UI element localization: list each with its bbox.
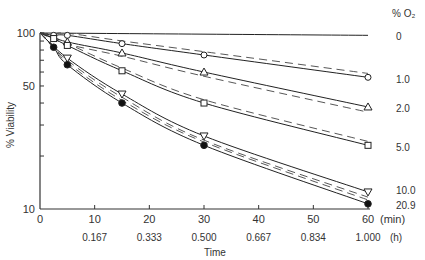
- legend-label-20.9: 20.9: [396, 200, 416, 211]
- y-tick-label: 100: [17, 27, 35, 39]
- y-axis-title: % Viability: [5, 102, 16, 148]
- marker-open-inverted-triangle: [118, 91, 126, 98]
- legend-title: % O₂: [392, 8, 415, 19]
- x-tick-label-hours: 0.834: [301, 232, 326, 243]
- fit-curve-20.9: [40, 33, 368, 204]
- viability-chart: 10050100100.167200.333300.500400.667500.…: [0, 0, 425, 260]
- marker-filled-circle: [64, 61, 71, 68]
- x-tick-label-hours: 0.667: [246, 232, 271, 243]
- y-tick-label: 50: [23, 80, 35, 92]
- x-tick-label-hours: 0.333: [137, 232, 162, 243]
- marker-filled-circle: [201, 142, 208, 149]
- x-tick-label-hours: 0.167: [82, 232, 107, 243]
- marker-open-square: [201, 100, 207, 106]
- marker-open-circle: [119, 41, 125, 47]
- legend-label-10.0: 10.0: [396, 185, 416, 196]
- x-tick-label-hours: 1.000: [355, 232, 380, 243]
- legend-label-0: 0: [396, 31, 402, 42]
- legend-label-5.0: 5.0: [396, 142, 410, 153]
- marker-open-inverted-triangle: [364, 189, 372, 196]
- x-tick-label: 0: [37, 213, 43, 225]
- x-unit-min: (min): [380, 213, 405, 225]
- marker-open-square: [119, 68, 125, 74]
- x-tick-label: 50: [307, 213, 319, 225]
- data-markers: [50, 32, 372, 207]
- x-tick-label: 20: [143, 213, 155, 225]
- marker-open-inverted-triangle: [200, 133, 208, 140]
- legend-label-1.0: 1.0: [396, 74, 410, 85]
- legend-label-2.0: 2.0: [396, 103, 410, 114]
- marker-open-square: [64, 42, 70, 48]
- x-tick-label: 60: [362, 213, 374, 225]
- x-unit-h: (h): [390, 232, 402, 243]
- fit-curve-0: [40, 33, 368, 35]
- marker-open-circle: [365, 74, 371, 80]
- marker-open-circle: [201, 52, 207, 58]
- x-tick-label-hours: 0.500: [191, 232, 216, 243]
- marker-filled-circle: [50, 44, 57, 51]
- y-tick-label: 10: [23, 203, 35, 215]
- x-tick-label: 30: [198, 213, 210, 225]
- marker-filled-circle: [365, 201, 372, 208]
- x-axis-title: Time: [204, 247, 226, 258]
- marker-filled-circle: [119, 100, 126, 107]
- x-tick-label: 10: [89, 213, 101, 225]
- marker-open-square: [365, 142, 371, 148]
- marker-open-square: [51, 36, 57, 42]
- fit-curve-5.0: [40, 33, 368, 145]
- axes: [40, 33, 370, 209]
- x-tick-label: 40: [253, 213, 265, 225]
